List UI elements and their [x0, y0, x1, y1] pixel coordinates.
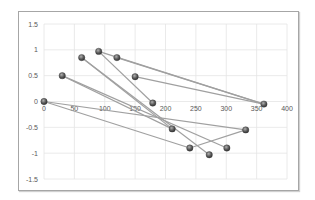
x-tick-label: 200: [160, 105, 172, 112]
x-tick-label: 0: [42, 105, 46, 112]
data-point-marker: [206, 152, 212, 158]
connector-line: [190, 130, 246, 148]
x-tick-label: 300: [220, 105, 232, 112]
data-point-marker: [41, 98, 47, 104]
data-point-marker: [261, 101, 267, 107]
y-axis-tick-labels: 1.510.50-0.5-1-1.5: [26, 21, 38, 183]
y-tick-label: 1.5: [28, 21, 38, 28]
data-point-marker: [242, 127, 248, 133]
data-point-marker: [224, 145, 230, 151]
connector-line: [117, 58, 264, 105]
y-tick-label: -0.5: [26, 124, 38, 131]
x-tick-label: 400: [281, 105, 293, 112]
data-point-marker: [150, 100, 156, 106]
x-tick-label: 350: [251, 105, 263, 112]
data-point-marker: [169, 126, 175, 132]
data-point-marker: [59, 72, 65, 78]
data-point-marker: [132, 74, 138, 80]
y-tick-label: -1.5: [26, 176, 38, 183]
data-point-marker: [78, 54, 84, 60]
y-tick-label: 0.5: [28, 72, 38, 79]
connector-line: [135, 77, 264, 104]
connector-line: [62, 76, 227, 148]
x-axis-tick-labels: 050100150200250300350400: [42, 105, 293, 112]
data-point-marker: [114, 54, 120, 60]
data-point-marker: [95, 48, 101, 54]
scatter-chart: 050100150200250300350400 1.510.50-0.5-1-…: [0, 0, 315, 200]
y-tick-label: 0: [34, 98, 38, 105]
data-point-marker: [187, 145, 193, 151]
y-tick-label: 1: [34, 46, 38, 53]
x-tick-label: 250: [190, 105, 202, 112]
y-tick-label: -1: [32, 150, 38, 157]
